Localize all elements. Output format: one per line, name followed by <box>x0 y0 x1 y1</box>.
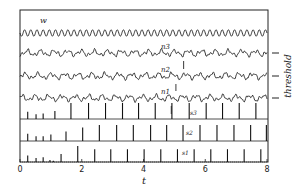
trace-label-w: w <box>40 16 47 25</box>
trace-w <box>20 30 267 36</box>
trace-label-n2: n2 <box>161 66 171 74</box>
trace-label-n3: n3 <box>161 43 171 51</box>
x-tick-label: 6 <box>203 165 208 174</box>
chart: 02468 w n3 n2 n1 s3 s2 s1 t threshold <box>0 0 308 189</box>
traces-group <box>20 30 267 103</box>
threshold-label: threshold <box>283 54 293 98</box>
trace-label-n1: n1 <box>161 88 170 96</box>
x-tick-label: 2 <box>79 165 84 174</box>
trace-n2 <box>20 72 267 81</box>
x-tick-label: 0 <box>17 165 22 174</box>
x-tick-label: 8 <box>264 165 269 174</box>
trace-n1 <box>20 94 267 103</box>
annotations-group <box>171 61 183 114</box>
spike-label-s2: s2 <box>186 129 193 136</box>
x-axis-label: t <box>142 175 147 186</box>
threshold-markers-group <box>272 53 279 98</box>
spikes-group <box>28 103 267 162</box>
x-ticks-group: 02468 <box>17 159 269 174</box>
spike-label-s1: s1 <box>182 149 189 156</box>
spike-label-s3: s3 <box>190 109 197 116</box>
trace-n3 <box>20 48 267 57</box>
x-tick-label: 4 <box>141 165 146 174</box>
